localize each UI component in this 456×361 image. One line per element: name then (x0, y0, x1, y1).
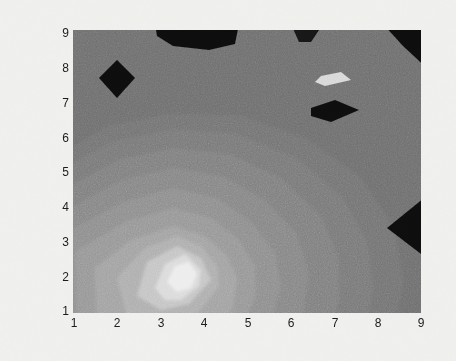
x-tick-label-2: 2 (114, 317, 121, 329)
y-tick-label-7: 7 (62, 97, 69, 109)
plot-canvas (73, 30, 421, 313)
x-tick-label-7: 7 (332, 317, 339, 329)
y-tick-label-2: 2 (62, 271, 69, 283)
x-tick-label-9: 9 (418, 317, 425, 329)
x-tick-label-6: 6 (288, 317, 295, 329)
y-tick-label-9: 9 (62, 27, 69, 39)
y-tick-label-5: 5 (62, 166, 69, 178)
y-tick-label-4: 4 (62, 201, 69, 213)
y-tick-label-1: 1 (62, 305, 69, 317)
y-tick-label-8: 8 (62, 62, 69, 74)
x-tick-label-4: 4 (201, 317, 208, 329)
x-tick-label-3: 3 (158, 317, 165, 329)
x-tick-label-5: 5 (245, 317, 252, 329)
x-tick-label-1: 1 (71, 317, 78, 329)
contour-plot-figure: 9 8 7 6 5 4 3 2 1 1 2 3 4 5 6 7 8 9 (0, 0, 456, 361)
y-tick-label-6: 6 (62, 132, 69, 144)
y-tick-label-3: 3 (62, 236, 69, 248)
contour-surface (73, 30, 421, 313)
x-tick-label-8: 8 (375, 317, 382, 329)
